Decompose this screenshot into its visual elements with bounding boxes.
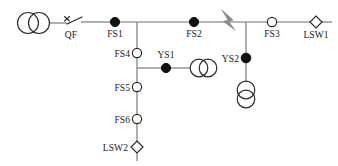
fs4-node-icon xyxy=(132,48,141,57)
fault-lightning-icon xyxy=(222,10,235,30)
fs2-node-icon xyxy=(189,17,198,26)
lsw1-label: LSW1 xyxy=(303,30,328,40)
load-switch-lsw2[interactable]: LSW2 xyxy=(103,141,143,153)
load-switch-lsw1[interactable]: LSW1 xyxy=(303,16,328,40)
ys1-label: YS1 xyxy=(157,50,174,60)
switch-fs2[interactable]: FS2 xyxy=(186,17,202,39)
circuit-breaker-qf[interactable]: QF xyxy=(65,17,83,41)
switch-fs3[interactable]: FS3 xyxy=(264,17,280,39)
switch-ys1[interactable]: YS1 xyxy=(157,50,174,73)
switch-fs6[interactable]: FS6 xyxy=(114,114,141,124)
fs6-node-icon xyxy=(132,114,141,123)
lightning-bolt-shape xyxy=(222,10,235,30)
fs3-label: FS3 xyxy=(264,29,280,39)
lsw1-diamond-icon xyxy=(310,16,322,28)
ys2-label: YS2 xyxy=(222,54,239,64)
fs5-node-icon xyxy=(132,82,141,91)
ys1-node-icon xyxy=(161,63,170,72)
switch-ys2[interactable]: YS2 xyxy=(222,53,251,63)
source-transformer[interactable] xyxy=(18,13,50,34)
fs1-label: FS1 xyxy=(107,29,123,39)
ys2-node-icon xyxy=(241,53,251,63)
fs5-label: FS5 xyxy=(114,83,130,93)
qf-label: QF xyxy=(65,30,77,40)
switch-fs5[interactable]: FS5 xyxy=(114,82,141,92)
fs4-label: FS4 xyxy=(114,49,130,59)
switch-fs1[interactable]: FS1 xyxy=(107,17,123,39)
lsw2-diamond-icon xyxy=(131,141,143,153)
conductors xyxy=(49,22,332,161)
fs3-node-icon xyxy=(267,17,276,26)
lsw2-label: LSW2 xyxy=(103,143,128,153)
switch-fs4[interactable]: FS4 xyxy=(114,48,141,58)
ys2-transformer[interactable] xyxy=(237,81,255,108)
fs6-label: FS6 xyxy=(114,115,130,125)
fs2-label: FS2 xyxy=(186,29,202,39)
ys1-transformer[interactable] xyxy=(190,59,217,77)
fs1-node-icon xyxy=(110,17,119,26)
single-line-diagram: QF FS1 FS2 FS3 LSW1 FS4 xyxy=(0,0,338,166)
diagram-canvas: QF FS1 FS2 FS3 LSW1 FS4 xyxy=(0,0,338,166)
